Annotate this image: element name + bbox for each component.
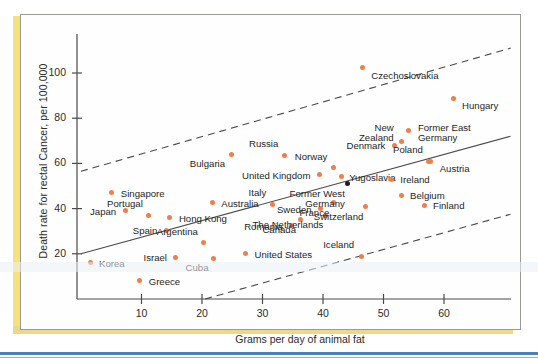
data-point-label: Switzerland: [314, 212, 364, 222]
data-point-label: Finland: [433, 201, 464, 211]
data-point-label: New Zealand: [359, 123, 394, 144]
x-tick-label: 20: [187, 307, 217, 319]
data-point: [282, 153, 287, 158]
data-point: [422, 203, 427, 208]
x-tick-label: 60: [429, 307, 459, 319]
data-point: [211, 256, 216, 261]
data-point-label: Hungary: [462, 101, 498, 111]
decorative-blue-rule: [0, 352, 538, 355]
data-point-label: Cuba: [186, 263, 209, 273]
data-point: [360, 65, 365, 70]
data-point-label: Spain: [133, 226, 158, 236]
data-point: [399, 193, 404, 198]
data-point-label: Australia: [221, 199, 258, 209]
data-point-label: Bulgaria: [190, 159, 225, 169]
data-point: [428, 159, 433, 164]
data-point-label: Greece: [149, 277, 180, 287]
data-point-label: Norway: [295, 152, 328, 162]
data-point: [229, 152, 234, 157]
data-point-label: Czechoslovakia: [371, 71, 438, 81]
data-point: [389, 177, 394, 182]
data-point-label: United States: [255, 250, 313, 260]
data-point: [359, 254, 364, 259]
data-point-label: Poland: [393, 145, 423, 155]
x-axis-title: Grams per day of animal fat: [150, 333, 450, 345]
y-axis-title: Death rate for rectal Cancer, per 100,00…: [37, 46, 49, 276]
data-point-label: United Kingdom: [242, 171, 310, 181]
data-point-label: Portugal: [107, 199, 143, 209]
x-tick-label: 30: [248, 307, 278, 319]
x-tick-label: 50: [369, 307, 399, 319]
data-point-label: Argentina: [157, 227, 198, 237]
data-point-label: Former East Germany: [418, 123, 471, 144]
data-point-label: Ireland: [400, 175, 429, 185]
data-point-label: Korea: [99, 259, 125, 269]
data-point: [363, 204, 368, 209]
data-point-label: Russia: [249, 139, 278, 149]
x-tick-label: 40: [308, 307, 338, 319]
data-point-label: Former West Germany: [290, 189, 345, 210]
decorative-blue-rule-thin: [0, 357, 538, 358]
data-point-label: Austria: [440, 164, 470, 174]
data-point-label: Hong Kong: [179, 214, 227, 224]
data-point: [270, 202, 275, 207]
data-point-label: Israel: [144, 253, 167, 263]
x-tick-label: 10: [127, 307, 157, 319]
figure-page: 20406080100102030405060KoreaJapanSingapo…: [0, 0, 538, 364]
data-point: [88, 260, 93, 265]
data-point-label: Iceland: [323, 240, 354, 250]
data-point-label: Italy: [249, 188, 267, 198]
